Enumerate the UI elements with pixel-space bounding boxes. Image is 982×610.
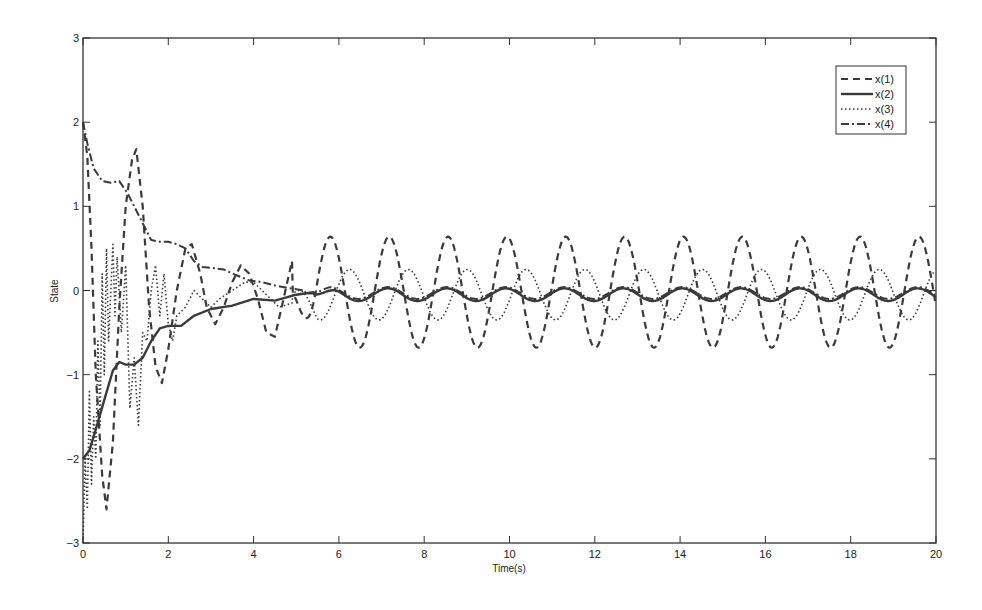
x-tick-label: 0 bbox=[80, 548, 86, 560]
x-tick-label: 8 bbox=[421, 548, 427, 560]
x-tick-label: 4 bbox=[251, 548, 257, 560]
y-tick-label: 1 bbox=[73, 200, 79, 212]
y-tick-label: −3 bbox=[66, 537, 79, 549]
line-chart: 02468101214161820−3−2−10123 Time(s) Stat… bbox=[0, 0, 982, 610]
x-tick-label: 20 bbox=[930, 548, 942, 560]
x-tick-label: 16 bbox=[759, 548, 771, 560]
y-tick-label: 0 bbox=[73, 285, 79, 297]
legend: x(1)x(2)x(3)x(4) bbox=[836, 66, 906, 134]
y-tick-label: −1 bbox=[66, 369, 79, 381]
x-tick-label: 10 bbox=[503, 548, 515, 560]
x-tick-label: 2 bbox=[165, 548, 171, 560]
x-tick-label: 14 bbox=[674, 548, 686, 560]
x-tick-label: 18 bbox=[845, 548, 857, 560]
y-tick-label: 3 bbox=[73, 32, 79, 44]
x-tick-label: 6 bbox=[336, 548, 342, 560]
legend-label-1: x(1) bbox=[875, 73, 894, 85]
y-tick-label: 2 bbox=[73, 116, 79, 128]
legend-label-3: x(3) bbox=[875, 103, 894, 115]
y-axis-label: State bbox=[49, 279, 60, 303]
x-axis-label: Time(s) bbox=[492, 563, 526, 574]
legend-label-4: x(4) bbox=[875, 118, 894, 130]
y-tick-label: −2 bbox=[66, 453, 79, 465]
legend-label-2: x(2) bbox=[875, 88, 894, 100]
x-tick-label: 12 bbox=[589, 548, 601, 560]
chart-background bbox=[0, 0, 982, 610]
